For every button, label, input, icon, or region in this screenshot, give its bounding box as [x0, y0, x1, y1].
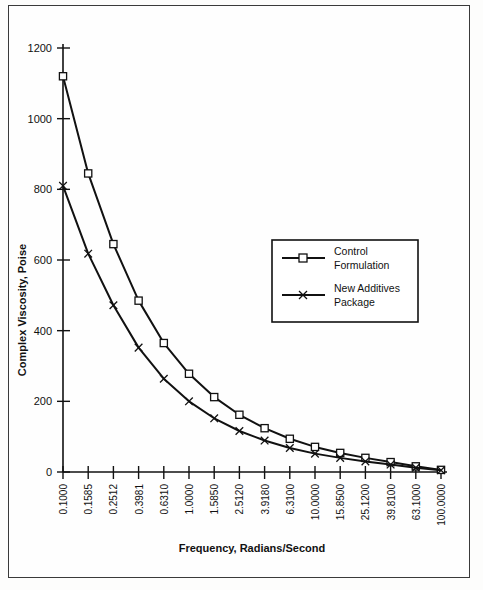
legend-marker-square: [299, 254, 307, 262]
y-axis-title: Complex Viscosity, Poise: [16, 244, 28, 376]
data-point-marker: [160, 375, 168, 383]
x-tick-label: 63.1000: [411, 484, 422, 521]
legend-label-control-line1: Control: [334, 245, 368, 257]
data-point-marker: [185, 398, 193, 406]
chart-legend: Control Formulation New Additives Packag…: [272, 240, 418, 322]
viscosity-line-chart: Complex Viscosity, Poise Frequency, Radi…: [0, 0, 483, 590]
x-tick-label: 25.1200: [360, 484, 371, 521]
data-point-marker: [160, 339, 167, 346]
data-point-marker: [236, 411, 243, 418]
x-tick-label: 39.8100: [386, 484, 397, 521]
legend-label-new-additives-line1: New Additives: [334, 282, 400, 294]
y-tick-label: 800: [34, 183, 52, 195]
x-tick-label: 1.5850: [209, 484, 220, 515]
x-tick-label: 2.5120: [234, 484, 245, 515]
data-point-marker: [261, 425, 268, 432]
data-point-marker: [135, 297, 142, 304]
data-point-marker: [110, 241, 117, 248]
y-tick-label: 600: [34, 254, 52, 266]
y-tick-label: 400: [34, 325, 52, 337]
data-point-marker: [59, 73, 66, 80]
data-point-marker: [85, 170, 92, 177]
x-tick-label: 10.0000: [310, 484, 321, 521]
series-polyline: [63, 186, 441, 470]
legend-label-control-line2: Formulation: [334, 259, 390, 271]
x-tick-group: 0.10000.15850.25120.39810.63101.00001.58…: [58, 466, 447, 526]
x-tick-label: 0.3981: [134, 484, 145, 515]
x-tick-label: 0.2512: [108, 484, 119, 515]
x-tick-label: 0.1000: [58, 484, 69, 515]
chart-canvas: Complex Viscosity, Poise Frequency, Radi…: [0, 0, 483, 590]
y-tick-label: 0: [46, 466, 52, 478]
series-new-additives: [59, 182, 445, 474]
data-point-marker: [286, 435, 293, 442]
x-tick-label: 15.8500: [335, 484, 346, 521]
x-tick-label: 6.3100: [285, 484, 296, 515]
x-tick-label: 0.6310: [159, 484, 170, 515]
chart-page: Complex Viscosity, Poise Frequency, Radi…: [0, 0, 483, 590]
y-tick-label: 200: [34, 395, 52, 407]
x-tick-label: 3.9180: [260, 484, 271, 515]
data-point-marker: [110, 301, 118, 309]
data-point-marker: [211, 393, 218, 400]
x-tick-label: 100.0000: [436, 484, 447, 526]
y-tick-label: 1000: [28, 113, 52, 125]
legend-label-new-additives-line2: Package: [334, 296, 375, 308]
data-point-marker: [135, 344, 143, 352]
x-axis-title: Frequency, Radians/Second: [179, 542, 326, 554]
data-point-marker: [210, 414, 218, 422]
data-point-marker: [185, 370, 192, 377]
x-tick-label: 1.0000: [184, 484, 195, 515]
y-tick-label: 1200: [28, 42, 52, 54]
x-tick-label: 0.1585: [83, 484, 94, 515]
data-point-marker: [311, 443, 318, 450]
